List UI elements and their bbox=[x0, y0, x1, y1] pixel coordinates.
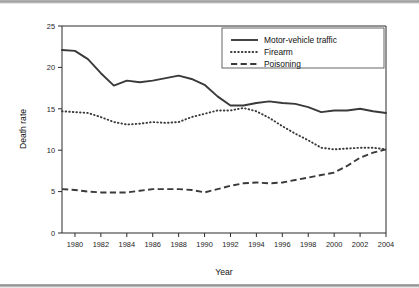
legend-label: Poisoning bbox=[264, 59, 301, 69]
legend-label: Motor-vehicle traffic bbox=[264, 35, 337, 45]
y-axis-title: Death rate bbox=[18, 109, 28, 149]
x-tick-label: 1994 bbox=[248, 240, 264, 249]
x-tick-label: 2004 bbox=[378, 240, 394, 249]
y-axis-ticks: 0510152025 bbox=[47, 22, 62, 238]
series-line-poisoning bbox=[62, 149, 386, 192]
x-axis-ticks: 1980198219841986198819901992199419961998… bbox=[67, 233, 394, 249]
legend-border bbox=[222, 28, 384, 68]
legend-entries: Motor-vehicle trafficFirearmPoisoning bbox=[231, 35, 337, 69]
legend-item: Firearm bbox=[231, 47, 293, 57]
chart-legend: Motor-vehicle trafficFirearmPoisoning bbox=[222, 28, 384, 69]
y-tick-label: 0 bbox=[51, 229, 55, 238]
legend-item: Motor-vehicle traffic bbox=[231, 35, 337, 45]
x-tick-label: 1984 bbox=[119, 240, 135, 249]
y-tick-label: 10 bbox=[47, 146, 55, 155]
chart-canvas: 0510152025 19801982198419861988199019921… bbox=[0, 4, 419, 284]
scan-edge-bottom bbox=[0, 284, 419, 288]
data-series-layer bbox=[62, 50, 386, 192]
plot-frame bbox=[62, 26, 386, 233]
y-tick-label: 15 bbox=[47, 105, 55, 114]
x-tick-label: 2002 bbox=[352, 240, 368, 249]
x-tick-label: 1990 bbox=[196, 240, 212, 249]
x-axis-title: Year bbox=[215, 267, 233, 277]
x-tick-label: 1986 bbox=[144, 240, 160, 249]
series-line-firearm bbox=[62, 108, 386, 149]
line-chart-figure: 0510152025 19801982198419861988199019921… bbox=[0, 4, 419, 284]
y-tick-label: 25 bbox=[47, 22, 55, 31]
legend-label: Firearm bbox=[264, 47, 293, 57]
x-tick-label: 1998 bbox=[300, 240, 316, 249]
x-tick-label: 1992 bbox=[222, 240, 238, 249]
x-tick-label: 1996 bbox=[274, 240, 290, 249]
x-tick-label: 1980 bbox=[67, 240, 83, 249]
series-line-motor-vehicle-traffic bbox=[62, 50, 386, 113]
y-tick-label: 20 bbox=[47, 63, 55, 72]
y-tick-label: 5 bbox=[51, 187, 55, 196]
x-tick-label: 1982 bbox=[93, 240, 109, 249]
x-tick-label: 2000 bbox=[326, 240, 342, 249]
legend-item: Poisoning bbox=[231, 59, 301, 69]
x-tick-label: 1988 bbox=[170, 240, 186, 249]
